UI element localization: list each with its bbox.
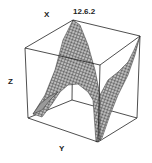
saddle-surface bbox=[33, 20, 140, 142]
plot-3d bbox=[0, 0, 152, 163]
